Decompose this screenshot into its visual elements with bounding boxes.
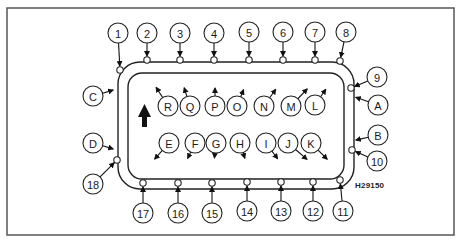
bolt-number-callout: 8 bbox=[336, 22, 356, 42]
bolt-hole bbox=[117, 67, 123, 73]
bolt-number-callout: 2 bbox=[137, 23, 157, 43]
bolt-number-callout: 14 bbox=[237, 201, 257, 221]
leader-arrow bbox=[355, 81, 368, 87]
callout-label: A bbox=[374, 100, 382, 112]
bolt-number-callout: 11 bbox=[333, 201, 353, 221]
bolt-hole bbox=[310, 179, 316, 185]
callout-label: B bbox=[374, 130, 381, 142]
leader-arrow bbox=[298, 89, 307, 99]
callout-label: J bbox=[285, 138, 291, 150]
callout-label: 16 bbox=[172, 208, 184, 220]
callout-label: P bbox=[211, 101, 218, 113]
callout-label: O bbox=[233, 101, 242, 113]
callout-label: 12 bbox=[307, 206, 319, 218]
bolt-number-callout: 13 bbox=[271, 201, 291, 221]
callout-label: 5 bbox=[246, 27, 252, 39]
bolt-letter-callout: G bbox=[206, 133, 226, 153]
callout-label: E bbox=[165, 138, 172, 150]
bolt-number-callout: 18 bbox=[83, 174, 103, 194]
bolt-number-callout: 5 bbox=[239, 22, 259, 42]
bolt-hole bbox=[144, 57, 150, 63]
bolt-letter-callout: P bbox=[205, 96, 225, 116]
leader-arrow bbox=[243, 153, 245, 159]
leader-arrow bbox=[356, 152, 368, 157]
bolt-number-callout: 12 bbox=[303, 201, 323, 221]
bolt-hole bbox=[175, 180, 181, 186]
bolt-hole bbox=[114, 157, 120, 163]
direction-arrow-icon bbox=[138, 104, 151, 127]
bolt-hole bbox=[312, 57, 318, 63]
callout-label: F bbox=[192, 138, 199, 150]
leader-arrow bbox=[100, 163, 114, 177]
callout-label: L bbox=[312, 100, 318, 112]
bolt-letter-callout: Q bbox=[180, 96, 200, 116]
bolt-hole bbox=[177, 57, 183, 63]
leader-arrow bbox=[241, 90, 244, 97]
callout-label: C bbox=[89, 91, 97, 103]
callout-label: 9 bbox=[374, 72, 380, 84]
leader-arrow bbox=[272, 151, 278, 159]
bolt-number-callout: 17 bbox=[133, 203, 153, 223]
bolt-hole bbox=[140, 180, 146, 186]
bolt-number-callout: 1 bbox=[108, 23, 128, 43]
bolt-letter-callout: I bbox=[256, 133, 276, 153]
callout-label: 2 bbox=[144, 28, 150, 40]
bolt-letter-callout: A bbox=[368, 95, 388, 115]
bolt-letter-callout: R bbox=[158, 96, 178, 116]
bolt-hole bbox=[348, 85, 354, 91]
leader-arrow bbox=[270, 89, 276, 98]
leader-arrow bbox=[318, 150, 327, 159]
bolt-sequence-diagram: 123456789101112131415161718ABCDEFGHIJKLM… bbox=[0, 0, 464, 243]
bolt-hole bbox=[244, 179, 250, 185]
bolt-letter-callout: N bbox=[254, 96, 274, 116]
callout-label: Q bbox=[186, 101, 195, 113]
bolt-letter-callout: O bbox=[227, 96, 247, 116]
callout-label: D bbox=[89, 138, 97, 150]
leader-arrow bbox=[356, 137, 368, 140]
leader-arrow bbox=[103, 90, 114, 93]
leader-arrow bbox=[119, 43, 120, 66]
bolt-letter-callout: B bbox=[368, 125, 388, 145]
bolt-hole bbox=[349, 147, 355, 153]
bolt-letter-callout: E bbox=[159, 133, 179, 153]
callout-label: 10 bbox=[371, 156, 383, 168]
callout-label: M bbox=[286, 101, 295, 113]
diagram-frame: 123456789101112131415161718ABCDEFGHIJKLM… bbox=[0, 0, 464, 243]
callout-label: 6 bbox=[280, 27, 286, 39]
bolt-letter-callout: F bbox=[185, 133, 205, 153]
callout-label: 4 bbox=[211, 28, 217, 40]
callout-label: K bbox=[307, 138, 315, 150]
bolt-letter-callout: H bbox=[230, 133, 250, 153]
bolt-number-callout: 9 bbox=[367, 67, 387, 87]
bolt-number-callout: 10 bbox=[367, 151, 387, 171]
callout-label: 14 bbox=[241, 206, 253, 218]
leader-arrow bbox=[188, 152, 191, 158]
bolt-letter-callout: K bbox=[301, 133, 321, 153]
leader-arrow bbox=[156, 87, 162, 97]
figure-code: H29150 bbox=[355, 181, 384, 190]
bolt-letter-callout: J bbox=[278, 133, 298, 153]
bolt-letter-callout: L bbox=[305, 95, 325, 115]
bolt-number-callout: 3 bbox=[170, 23, 190, 43]
bolt-number-callout: 6 bbox=[273, 22, 293, 42]
bolt-letter-callout: C bbox=[83, 86, 103, 106]
callout-label: 17 bbox=[137, 208, 149, 220]
callout-label: H bbox=[236, 138, 244, 150]
callout-label: 3 bbox=[177, 28, 183, 40]
leader-arrow bbox=[184, 88, 187, 97]
gasket-outer-outline bbox=[118, 62, 354, 189]
callout-label: 7 bbox=[312, 27, 318, 39]
leader-arrow bbox=[321, 89, 326, 96]
bolt-hole bbox=[278, 179, 284, 185]
leader-arrow bbox=[356, 97, 369, 101]
callout-label: I bbox=[264, 138, 267, 150]
callout-label: 15 bbox=[206, 208, 218, 220]
bolt-letter-callout: M bbox=[281, 96, 301, 116]
bolt-hole bbox=[209, 180, 215, 186]
bolt-hole bbox=[211, 57, 217, 63]
bolt-hole bbox=[280, 57, 286, 63]
bolt-hole bbox=[337, 177, 343, 183]
callout-label: N bbox=[260, 101, 268, 113]
callout-label: 18 bbox=[87, 179, 99, 191]
bolt-number-callout: 7 bbox=[305, 22, 325, 42]
